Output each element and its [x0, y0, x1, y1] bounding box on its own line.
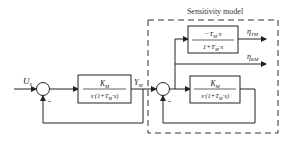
eta-tm-label: ηTM — [247, 27, 259, 37]
right-summing-junction — [157, 83, 170, 96]
left-summing-junction — [37, 83, 50, 96]
left-sum-minus: - — [48, 96, 51, 106]
right-sum-minus: - — [168, 96, 171, 106]
input-label: Us — [23, 76, 33, 87]
eta-km-label: ηKM — [247, 52, 259, 62]
sensitivity-model-title: Sensitivity model — [187, 7, 244, 16]
output-label: YM — [134, 78, 143, 88]
tm-block-numerator: −TM·s — [205, 30, 222, 39]
tm-block-denominator: 1+TM·s — [203, 43, 224, 52]
block-diagram: Sensitivity model Us - KM s·(1+TM·s) YM … — [0, 0, 293, 147]
